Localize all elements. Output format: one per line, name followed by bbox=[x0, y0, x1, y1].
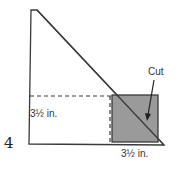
cut-label: Cut bbox=[148, 66, 164, 77]
diagonal-edge bbox=[37, 10, 164, 145]
cut-square bbox=[112, 95, 158, 142]
bottom-measure-label: 3½ in. bbox=[121, 148, 148, 159]
left-measure-label: 3½ in. bbox=[30, 108, 57, 119]
fabric-triangle-diagram bbox=[0, 0, 178, 171]
step-number: 4 bbox=[4, 134, 14, 152]
